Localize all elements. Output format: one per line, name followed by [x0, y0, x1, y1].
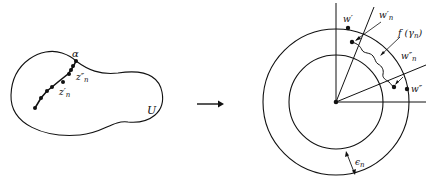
label-epsilon-n: ϵn	[355, 157, 365, 169]
label-z-n-prime: z′n	[58, 87, 71, 99]
label-region-u: U	[147, 104, 157, 117]
label-f-gamma-n: f (γn)	[397, 27, 422, 40]
leader-w-n-prime	[355, 22, 381, 41]
domain-u-figure: α z″n z′n U	[11, 48, 163, 135]
label-alpha: α	[72, 48, 79, 59]
point-w-prime	[346, 26, 350, 30]
mapping-arrow	[197, 101, 224, 108]
domain-u-boundary	[11, 51, 163, 135]
annulus-figure: w′ w′n f (γn) w″n w″ ϵn	[263, 3, 426, 175]
label-w-prime: w′	[343, 14, 353, 24]
point-w-n-double-prime	[392, 85, 396, 89]
label-w-n-double-prime: w″n	[401, 51, 417, 63]
curve-gamma-n	[35, 61, 76, 108]
label-w-double-prime: w″	[411, 84, 423, 94]
conformal-map-diagram: α z″n z′n U	[0, 0, 426, 189]
label-z-n-double-prime: z″n	[75, 72, 89, 84]
ray-upper	[336, 7, 374, 102]
label-w-n-prime: w′n	[379, 10, 394, 22]
point-w-double-prime	[405, 87, 409, 91]
center-point	[334, 100, 339, 105]
leader-w-n-double	[395, 77, 403, 85]
point-w-n-prime	[350, 40, 354, 44]
